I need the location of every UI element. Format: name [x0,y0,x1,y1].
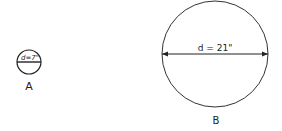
diameter-label-b: d = 21" [198,43,233,53]
diameter-label-a: d=7" [21,54,39,62]
circle-b: d = 21" B [162,1,268,126]
circle-a: d=7" A [17,50,41,93]
circle-label-b: B [213,115,220,126]
circle-label-a: A [25,80,33,93]
arrowhead-right-icon [262,52,268,57]
circle-comparison-diagram: d=7" A d = 21" B [0,0,282,131]
arrowhead-left-icon [162,52,168,57]
